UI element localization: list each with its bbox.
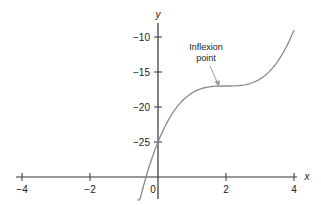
y-tick-label: −20 [133, 102, 150, 113]
y-tick-label: −15 [133, 67, 150, 78]
x-tick-label: 0 [150, 184, 156, 195]
annotation-line-2: point [196, 53, 216, 63]
inflexion-annotation: Inflexion point [189, 42, 223, 87]
cubic-function-chart: −4 −2 0 2 4 x −10 −15 −20 −25 y Inflexio… [0, 0, 321, 205]
x-tick-label: −4 [16, 184, 28, 195]
x-tick-label: 2 [223, 184, 229, 195]
x-tick-label: −2 [84, 184, 96, 195]
x-axis-label: x [304, 171, 311, 182]
y-tick-label: −10 [133, 32, 150, 43]
cubic-curve [138, 30, 294, 200]
y-tick-label: −25 [133, 137, 150, 148]
x-tick-label: 4 [291, 184, 297, 195]
y-axis-label: y [155, 9, 162, 20]
annotation-line-1: Inflexion [189, 42, 223, 52]
x-axis: −4 −2 0 2 4 x [16, 171, 311, 195]
